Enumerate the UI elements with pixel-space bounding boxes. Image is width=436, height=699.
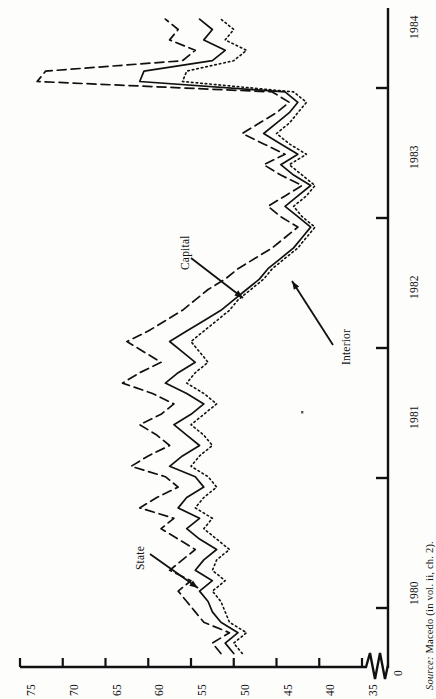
- series-label-capital: Capital: [179, 235, 191, 270]
- value-axis-tick-label: 70: [68, 684, 80, 696]
- arrow-state: [150, 554, 198, 588]
- time-axis-year-label: 1983: [408, 145, 420, 169]
- series-line-interior: [182, 19, 315, 653]
- arrow-interior-head: [292, 281, 299, 290]
- time-axis-year-label: 1984: [408, 15, 420, 39]
- source-note-prefix: Source:: [424, 656, 435, 690]
- source-note-text: Macedo (in vol. ii, ch. 2).: [424, 541, 435, 656]
- value-axis-tick-label: 45: [282, 684, 294, 696]
- time-axis-year-label: 1981: [408, 405, 420, 429]
- value-axis-tick-label: 50: [239, 684, 251, 696]
- arrow-interior: [292, 281, 333, 345]
- value-axis-tick-label: 75: [25, 684, 37, 696]
- arrow-capital: [191, 258, 243, 298]
- time-axis-year-label: 1980: [408, 581, 420, 605]
- axis-break-label: 0: [392, 670, 404, 676]
- figure-container: 757065605550454035 0 1984198319821981198…: [0, 0, 436, 699]
- chart-plot-area: [0, 0, 436, 699]
- scan-speck: [301, 411, 303, 413]
- series-label-state: State: [134, 546, 146, 570]
- value-axis-tick-label: 40: [324, 684, 336, 696]
- value-axis-line: [20, 653, 388, 679]
- value-axis-tick-label: 35: [367, 684, 379, 696]
- series-label-interior: Interior: [340, 329, 352, 365]
- series-line-state: [140, 19, 311, 653]
- time-axis-year-label: 1982: [408, 275, 420, 299]
- value-axis-tick-label: 55: [196, 684, 208, 696]
- value-axis-tick-label: 65: [111, 684, 123, 696]
- source-note: Source: Macedo (in vol. ii, ch. 2).: [424, 541, 435, 690]
- series-line-capital: [37, 19, 302, 653]
- value-axis-tick-label: 60: [153, 684, 165, 696]
